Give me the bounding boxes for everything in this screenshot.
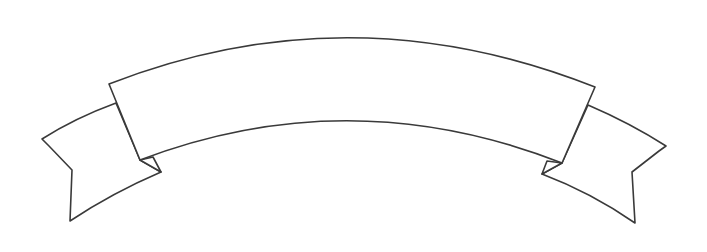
ribbon-main-band: [109, 38, 595, 163]
ribbon-banner-icon: [0, 0, 707, 252]
ribbon-banner-canvas: [0, 0, 707, 252]
